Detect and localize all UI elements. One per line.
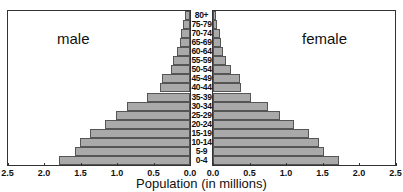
x-tick-mark [396,163,397,166]
female-bar [213,47,223,56]
male-bar [183,20,190,29]
female-bar [213,29,220,38]
male-bar [185,11,190,20]
male-bar [171,65,190,74]
female-label: female [302,30,347,47]
x-tick-mark [117,163,118,166]
male-bar [75,147,190,156]
x-tick-mark [81,163,82,166]
male-bar [116,111,190,120]
female-bar [213,74,240,83]
x-tick-mark [190,163,191,166]
male-bar [181,29,190,38]
male-bar [105,120,190,129]
female-bar [213,20,217,29]
male-bar [90,129,190,138]
female-bar [213,38,221,47]
x-tick-mark [250,163,251,166]
female-bar [213,83,241,92]
age-label: 0-4 [191,156,212,165]
male-bar [160,83,190,92]
female-bar [213,120,294,129]
x-tick-mark [44,163,45,166]
female-bar [213,56,226,65]
female-bar [213,93,251,102]
male-label: male [57,30,90,47]
female-bar [213,11,216,20]
female-bar [213,147,324,156]
male-bar [180,38,190,47]
x-tick-mark [286,163,287,166]
female-bar [213,102,268,111]
male-bar [80,138,190,147]
x-tick-mark [213,163,214,166]
x-tick-mark [359,163,360,166]
male-bar [127,102,190,111]
x-tick-mark [154,163,155,166]
male-bar [173,56,190,65]
female-bar [213,138,319,147]
female-bar [213,129,309,138]
male-bar [162,74,190,83]
x-tick-mark [323,163,324,166]
male-bar [59,156,190,165]
female-bar [213,111,280,120]
male-bar [147,93,190,102]
x-tick-mark [8,163,9,166]
female-bar [213,65,231,74]
male-bar [177,47,190,56]
x-axis-title: Population (in millions) [0,176,403,191]
female-bar [213,156,339,165]
